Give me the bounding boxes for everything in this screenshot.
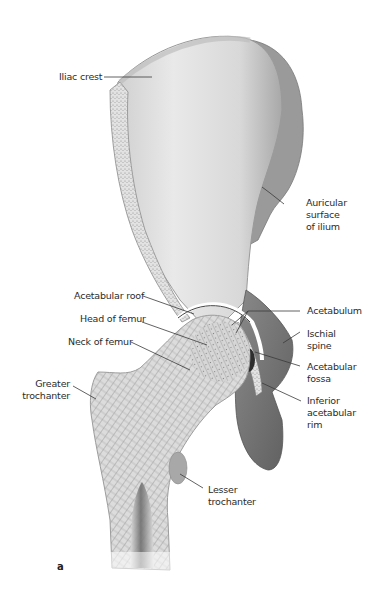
label-greater-trochanter: Greater trochanter	[20, 378, 70, 402]
label-line: rim	[307, 419, 356, 431]
label-iliac-crest: Iliac crest	[59, 71, 102, 83]
label-acetabulum: Acetabulum	[307, 305, 362, 317]
femur	[90, 315, 250, 574]
label-ischial-spine: Ischial spine	[307, 328, 336, 352]
label-line: Auricular	[306, 197, 347, 209]
label-line: spine	[307, 340, 336, 352]
label-line: Ischial	[307, 328, 336, 340]
hip-joint-anatomy-figure: Iliac crest Auricular surface of ilium A…	[0, 0, 386, 591]
label-auricular-surface: Auricular surface of ilium	[306, 197, 347, 233]
label-line: acetabular	[307, 407, 356, 419]
label-line: trochanter	[20, 390, 70, 402]
label-head-of-femur: Head of femur	[80, 313, 146, 325]
label-line: of ilium	[306, 221, 347, 233]
label-line: Acetabular	[307, 361, 356, 373]
label-line: Lesser	[208, 484, 256, 496]
label-acetabular-fossa: Acetabular fossa	[307, 361, 356, 385]
label-neck-of-femur: Neck of femur	[68, 336, 133, 348]
label-line: trochanter	[208, 496, 256, 508]
label-lesser-trochanter: Lesser trochanter	[208, 484, 256, 508]
panel-letter: a	[57, 561, 64, 572]
label-line: fossa	[307, 373, 356, 385]
label-line: Greater	[20, 378, 70, 390]
label-line: Inferior	[307, 395, 356, 407]
label-inferior-acetabular-rim: Inferior acetabular rim	[307, 395, 356, 431]
bone-illustration	[0, 0, 386, 591]
label-acetabular-roof: Acetabular roof	[74, 290, 144, 302]
label-line: surface	[306, 209, 347, 221]
ilium	[110, 36, 303, 322]
